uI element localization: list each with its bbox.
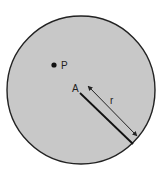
center-a-label: A	[72, 83, 79, 94]
circle-diagram: P A r	[0, 0, 161, 173]
point-p-dot	[51, 62, 56, 67]
point-p-label: P	[61, 60, 68, 71]
circle	[7, 16, 155, 164]
